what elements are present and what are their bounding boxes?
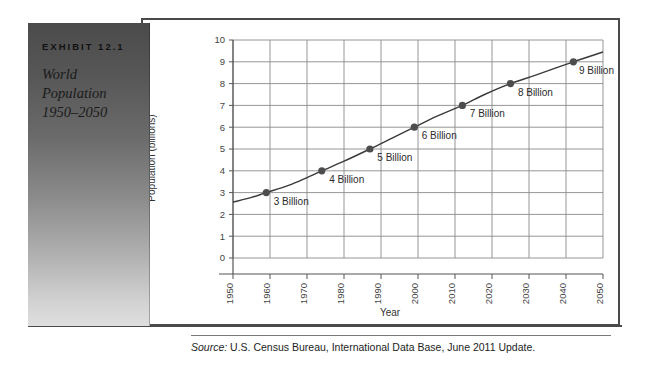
data-point-annotations: 3 Billion4 Billion5 Billion6 Billion7 Bi… (274, 65, 614, 207)
x-tick-label: 2010 (446, 283, 457, 304)
x-tick-label: 1970 (298, 283, 309, 304)
data-point-marker (507, 80, 514, 87)
x-tick-label: 2020 (483, 283, 494, 304)
y-tick-label: 1 (220, 231, 225, 242)
x-axis-title: Year (380, 307, 401, 318)
y-tick-label: 6 (220, 122, 225, 133)
y-axis-tick-labels: 012345678910 (214, 34, 225, 263)
y-tick-label: 2 (220, 209, 225, 220)
data-point-label: 3 Billion (274, 196, 309, 207)
data-point-marker (570, 58, 577, 65)
source-text: U.S. Census Bureau, International Data B… (227, 341, 535, 353)
x-tick-label: 2000 (409, 283, 420, 304)
exhibit-number: EXHIBIT 12.1 (42, 41, 125, 52)
data-point-marker (459, 102, 466, 109)
data-point-marker (411, 124, 418, 131)
data-point-label: 8 Billion (518, 87, 553, 98)
x-tick-label: 1980 (335, 283, 346, 304)
x-tick-label: 1960 (261, 283, 272, 304)
y-tick-label: 4 (220, 165, 225, 176)
gridlines (233, 40, 603, 258)
data-point-marker (318, 167, 325, 174)
data-point-label: 6 Billion (422, 130, 457, 141)
exhibit-container: 1950196019701980199020002010202020302040… (28, 18, 622, 328)
exhibit-title: World Population 1950–2050 (42, 65, 142, 122)
exhibit-title-line-2: Population (42, 84, 142, 103)
source-label: Source: (191, 341, 227, 353)
y-tick-label: 5 (220, 143, 225, 154)
exhibit-title-line-1: World (42, 65, 142, 84)
x-tick-label: 2030 (520, 283, 531, 304)
data-point-marker (263, 189, 270, 196)
x-tick-label: 1990 (372, 283, 383, 304)
x-tick-label: 2050 (594, 283, 605, 304)
exhibit-title-line-3: 1950–2050 (42, 103, 142, 122)
data-point-label: 4 Billion (329, 174, 364, 185)
y-tick-label: 9 (220, 56, 225, 67)
y-tick-label: 3 (220, 187, 225, 198)
x-axis-tick-labels: 1950196019701980199020002010202020302040… (224, 283, 605, 304)
source-divider (191, 335, 611, 336)
data-point-marker (366, 145, 373, 152)
x-tick-label: 1950 (224, 283, 235, 304)
y-tick-label: 8 (220, 78, 225, 89)
x-tick-label: 2040 (557, 283, 568, 304)
chart-area: 1950196019701980199020002010202020302040… (141, 18, 620, 326)
y-tick-label: 7 (220, 100, 225, 111)
source-note: Source: U.S. Census Bureau, Internationa… (191, 341, 535, 353)
data-point-label: 9 Billion (579, 65, 614, 76)
y-tick-label: 10 (214, 34, 225, 45)
data-point-label: 5 Billion (377, 152, 412, 163)
data-point-label: 7 Billion (470, 108, 505, 119)
y-tick-label: 0 (220, 252, 225, 263)
population-line-chart: 1950196019701980199020002010202020302040… (141, 18, 620, 326)
exhibit-title-panel: EXHIBIT 12.1 World Population 1950–2050 (28, 23, 150, 326)
